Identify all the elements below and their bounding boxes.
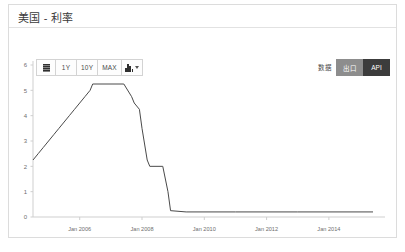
svg-text:4: 4 bbox=[24, 113, 28, 119]
x-axis: Jan 2006Jan 2008Jan 2010Jan 2012Jan 2014 bbox=[33, 217, 385, 232]
svg-text:Jan 2008: Jan 2008 bbox=[130, 226, 153, 232]
svg-text:Jan 2006: Jan 2006 bbox=[68, 226, 91, 232]
chart-plot-area: 0123456 Jan 2006Jan 2008Jan 2010Jan 2012… bbox=[9, 57, 398, 238]
y-axis: 0123456 bbox=[24, 61, 33, 220]
chart-panel: 美国 - 利率 1Y 10Y MAX 数据 出口 API 0123456 Jan… bbox=[8, 4, 397, 238]
svg-text:3: 3 bbox=[24, 138, 28, 144]
svg-text:Jan 2012: Jan 2012 bbox=[255, 226, 278, 232]
svg-text:Jan 2010: Jan 2010 bbox=[193, 226, 216, 232]
panel-header: 美国 - 利率 bbox=[9, 5, 396, 28]
svg-text:0: 0 bbox=[24, 214, 28, 220]
svg-text:1: 1 bbox=[24, 189, 28, 195]
page-title: 美国 - 利率 bbox=[18, 9, 73, 25]
interest-rate-line-chart: 0123456 Jan 2006Jan 2008Jan 2010Jan 2012… bbox=[9, 57, 398, 238]
chart-toolbar: 1Y 10Y MAX 数据 出口 API bbox=[9, 28, 396, 57]
series-line-interest-rate bbox=[33, 84, 373, 212]
svg-text:6: 6 bbox=[24, 62, 28, 68]
svg-text:2: 2 bbox=[24, 164, 28, 170]
svg-text:Jan 2014: Jan 2014 bbox=[317, 226, 340, 232]
svg-text:5: 5 bbox=[24, 88, 28, 94]
